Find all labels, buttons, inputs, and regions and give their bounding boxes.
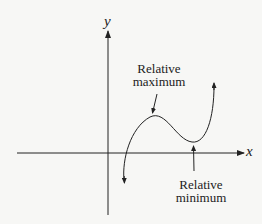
relative-maximum-label: Relative maximum xyxy=(124,62,194,88)
relative-minimum-line2: minimum xyxy=(168,191,234,204)
min-pointer-arrow xyxy=(194,146,195,171)
relative-maximum-line2: maximum xyxy=(124,75,194,88)
y-axis-label: y xyxy=(104,15,111,28)
x-axis-label: x xyxy=(246,145,253,158)
max-pointer-arrow xyxy=(153,94,158,113)
relative-minimum-label: Relative minimum xyxy=(168,178,234,204)
function-curve xyxy=(124,86,214,180)
